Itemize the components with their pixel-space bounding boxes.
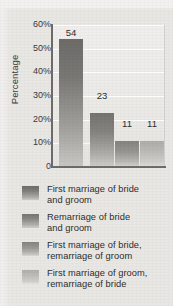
- plot-right-edge: [164, 25, 165, 167]
- bar-first-marriage-both[interactable]: [59, 39, 83, 167]
- y-axis-line: [51, 24, 53, 168]
- bar-fill: [140, 141, 164, 167]
- legend-swatch-icon: [22, 186, 39, 200]
- legend-label-line2: and groom: [47, 223, 130, 234]
- legend-item-first-bride-remarriage-groom[interactable]: First marriage of bride, remarriage of g…: [22, 240, 173, 262]
- legend-label-line1: Remarriage of bride: [47, 212, 130, 223]
- legend-label-line1: First marriage of bride: [47, 184, 139, 195]
- legend-label-line1: First marriage of bride,: [47, 240, 142, 251]
- legend-swatch-icon: [22, 242, 39, 256]
- y-axis-ticks: 60% 50% 40% 30% 20% 10% 0: [18, 18, 51, 170]
- x-axis-line: [51, 166, 166, 168]
- legend-label-line2: remarriage of bride: [47, 279, 147, 290]
- legend-swatch-icon: [22, 270, 39, 284]
- bar-first-bride-remarriage-groom[interactable]: [115, 141, 139, 167]
- legend-label: First marriage of groom, remarriage of b…: [47, 268, 147, 290]
- bar-fill: [59, 39, 83, 167]
- y-tick-50: 50%: [18, 44, 51, 53]
- legend-item-first-groom-remarriage-bride[interactable]: First marriage of groom, remarriage of b…: [22, 268, 173, 290]
- y-tick-20: 20%: [18, 115, 51, 124]
- legend-swatch-icon: [22, 214, 39, 228]
- y-tick-60: 60%: [18, 20, 51, 29]
- legend-label: First marriage of bride, remarriage of g…: [47, 240, 142, 262]
- data-label-bar3: 11: [115, 119, 139, 129]
- data-label-bar2: 23: [90, 91, 114, 101]
- legend-label: First marriage of bride and groom: [47, 184, 139, 206]
- legend-label: Remarriage of bride and groom: [47, 212, 130, 234]
- y-tick-40: 40%: [18, 67, 51, 76]
- legend-item-remarriage-both[interactable]: Remarriage of bride and groom: [22, 212, 173, 234]
- bar-fill: [115, 141, 139, 167]
- data-label-bar1: 54: [59, 28, 83, 38]
- bar-remarriage-both[interactable]: [90, 113, 114, 167]
- gridline-60: [52, 25, 165, 26]
- legend-label-line2: remarriage of groom: [47, 251, 142, 262]
- y-tick-10: 10%: [18, 138, 51, 147]
- data-label-bar4: 11: [140, 119, 164, 129]
- chart-legend: First marriage of bride and groom Remarr…: [0, 182, 173, 300]
- legend-label-line1: First marriage of groom,: [47, 268, 147, 279]
- bar-first-groom-remarriage-bride[interactable]: [140, 141, 164, 167]
- bar-fill: [90, 113, 114, 167]
- y-tick-30: 30%: [18, 91, 51, 100]
- bar-chart: Percentage 60% 50% 40% 30% 20% 10% 0 54 …: [0, 0, 173, 178]
- y-tick-0: 0: [18, 162, 51, 171]
- legend-label-line2: and groom: [47, 195, 139, 206]
- legend-item-first-marriage-both[interactable]: First marriage of bride and groom: [22, 184, 173, 206]
